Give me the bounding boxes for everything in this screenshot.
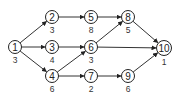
node-label: 6 — [88, 42, 94, 53]
node-label: 4 — [49, 71, 55, 82]
node-weight: 3 — [89, 55, 94, 65]
nodes-layer: 132334465863728596101 — [9, 11, 172, 94]
node-label: 9 — [125, 71, 131, 82]
network-diagram: 132334465863728596101 — [0, 0, 182, 97]
edge-9-to-10 — [133, 53, 158, 72]
node-weight: 6 — [50, 84, 55, 94]
node-4: 46 — [46, 70, 59, 94]
node-label: 8 — [125, 12, 131, 23]
edge-6-to-8 — [96, 21, 123, 42]
node-label: 7 — [88, 71, 94, 82]
node-10: 101 — [157, 41, 172, 67]
node-3: 34 — [46, 41, 59, 65]
node-weight: 3 — [13, 55, 18, 65]
node-weight: 5 — [126, 25, 131, 35]
node-weight: 1 — [162, 57, 167, 67]
edge-1-to-4 — [20, 51, 46, 72]
node-5: 58 — [85, 11, 98, 35]
edge-4-to-6 — [57, 51, 85, 72]
edge-6-to-10 — [97, 47, 156, 48]
node-label: 10 — [158, 43, 170, 54]
node-1: 13 — [9, 41, 22, 65]
node-weight: 2 — [89, 84, 94, 94]
node-weight: 4 — [50, 55, 55, 65]
node-label: 1 — [12, 42, 18, 53]
node-weight: 6 — [126, 84, 131, 94]
edge-8-to-10 — [133, 21, 158, 43]
node-9: 96 — [122, 70, 135, 94]
node-label: 2 — [49, 12, 55, 23]
node-2: 23 — [46, 11, 59, 35]
edge-1-to-2 — [20, 21, 47, 42]
node-label: 5 — [88, 12, 94, 23]
node-label: 3 — [49, 42, 55, 53]
node-7: 72 — [85, 70, 98, 94]
node-weight: 8 — [89, 25, 94, 35]
node-weight: 3 — [50, 25, 55, 35]
node-8: 85 — [122, 11, 135, 35]
node-6: 63 — [85, 41, 98, 65]
